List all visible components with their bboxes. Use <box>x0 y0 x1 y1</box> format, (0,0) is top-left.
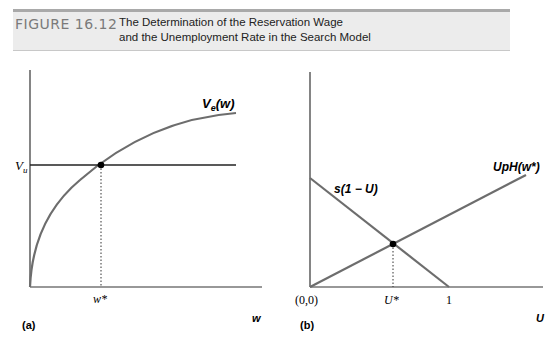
origin-label: (0,0) <box>295 293 318 307</box>
panel-a: Ve(w) Vu w* w (a) <box>15 70 262 331</box>
w-star-label: w* <box>93 292 107 306</box>
panel-b-equilibrium-point <box>390 241 397 248</box>
u-star-label: U* <box>384 293 399 307</box>
s-one-minus-u-label: s(1 − U) <box>334 182 378 196</box>
s-one-minus-u-line <box>310 178 449 287</box>
panel-a-label: (a) <box>22 319 36 331</box>
vu-label: Vu <box>15 158 28 175</box>
diagram-canvas: Ve(w) Vu w* w (a) s(1 − U) UpH(w*) (0,0)… <box>0 0 554 342</box>
panel-b-x-label: U <box>536 312 545 324</box>
ve-curve <box>30 113 236 287</box>
panel-b: s(1 − U) UpH(w*) (0,0) U* 1 U (b) <box>295 72 545 331</box>
panel-a-equilibrium-point <box>98 162 105 169</box>
panel-b-label: (b) <box>300 319 314 331</box>
panel-a-x-label: w <box>252 312 262 324</box>
uph-label: UpH(w*) <box>493 160 540 174</box>
ve-label: Ve(w) <box>202 96 234 113</box>
one-tick-label: 1 <box>446 293 452 307</box>
